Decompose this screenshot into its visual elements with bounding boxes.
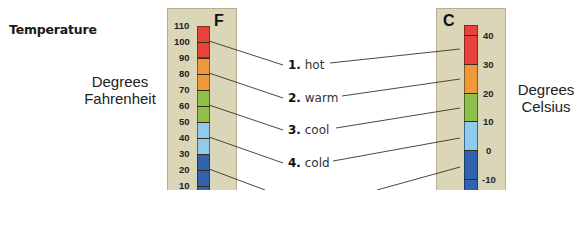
category-label-hot: 1. hot: [288, 58, 324, 72]
category-number: 1.: [288, 58, 301, 72]
category-name: hot: [305, 58, 325, 72]
category-label-cold: 4. cold: [288, 156, 330, 170]
category-label-cool: 3. cool: [288, 123, 329, 137]
category-number: 3.: [288, 123, 301, 137]
category-number: 4.: [288, 156, 301, 170]
category-label-warm: 2. warm: [288, 91, 338, 105]
category-number: 2.: [288, 91, 301, 105]
category-name: cool: [305, 123, 330, 137]
category-name: cold: [305, 156, 330, 170]
category-name: warm: [305, 91, 339, 105]
